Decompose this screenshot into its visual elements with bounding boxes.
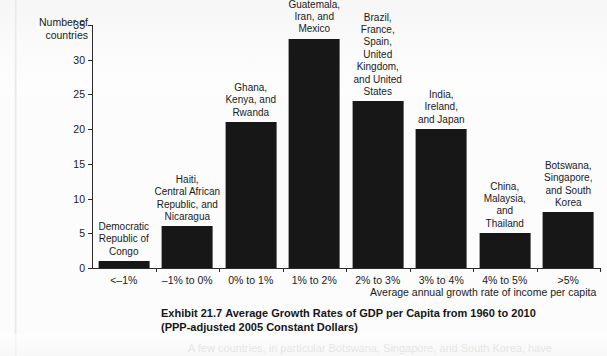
bar-annotation-line: Ghana, <box>214 82 288 94</box>
bar-group: China,Malaysia,andThailand <box>473 25 537 268</box>
bar-annotation-line: and South <box>531 185 605 197</box>
x-axis-tick-mark <box>473 268 474 272</box>
bar-group: Ghana,Kenya, andRwanda <box>219 25 283 268</box>
x-axis-tick-label: 3% to 4% <box>419 274 464 286</box>
bar-annotation-line: Republic, and <box>150 199 224 211</box>
bar <box>289 39 340 268</box>
y-axis-tick-label: 10 <box>73 193 85 205</box>
y-axis-tick-label: 25 <box>73 88 85 100</box>
body-text-clipped: A few countries, in particular Botswana,… <box>188 342 606 355</box>
bar-annotation-line: and United <box>341 74 415 86</box>
bar-annotation-line: Rwanda <box>214 107 288 119</box>
bar-annotation-line: Botswana, <box>531 160 605 172</box>
bar <box>352 101 403 268</box>
y-axis-tick-label: 5 <box>79 227 85 239</box>
bar-group: Brazil,France,Spain,UnitedKingdom,and Un… <box>346 25 410 268</box>
bar-group: DemocraticRepublic ofCongo <box>92 25 156 268</box>
x-axis-tick-mark <box>600 268 601 272</box>
y-axis-tick-mark <box>88 268 92 269</box>
exhibit-subtitle: (PPP-adjusted 2005 Constant Dollars) <box>161 321 358 333</box>
bar-annotation: Brazil,France,Spain,UnitedKingdom,and Un… <box>341 12 415 99</box>
x-axis-tick-label: 0% to 1% <box>228 274 273 286</box>
x-axis-title: Average annual growth rate of income per… <box>370 286 596 298</box>
bar-series: DemocraticRepublic ofCongoHaiti,Central … <box>92 25 600 268</box>
bar-annotation: India,Ireland,and Japan <box>404 89 478 126</box>
bar-annotation-line: Korea <box>531 197 605 209</box>
bar-annotation-line: Thailand <box>468 218 542 230</box>
bar-annotation-line: France, <box>341 24 415 36</box>
bar <box>225 122 276 268</box>
bar-annotation-line: Republic of <box>87 233 161 245</box>
x-axis-tick-mark <box>283 268 284 272</box>
x-axis-tick-mark <box>156 268 157 272</box>
bar-annotation-line: Kenya, and <box>214 94 288 106</box>
bar <box>543 212 594 268</box>
bar-annotation-line: Ireland, <box>404 101 478 113</box>
bar-group: Botswana,Singapore,and SouthKorea <box>537 25 601 268</box>
x-axis-tick-mark <box>219 268 220 272</box>
bar-annotation-line: Congo <box>87 246 161 258</box>
exhibit-caption: Exhibit 21.7 Average Growth Rates of GDP… <box>161 307 601 334</box>
bar-annotation-line: Kingdom, <box>341 61 415 73</box>
bar-annotation-line: Haiti, <box>150 174 224 186</box>
x-axis-tick-label: 1% to 2% <box>292 274 337 286</box>
bar-group: India,Ireland,and Japan <box>410 25 474 268</box>
x-axis-tick-label: <–1% <box>110 274 137 286</box>
bar-group: Guatemala,Iran, andMexico <box>283 25 347 268</box>
x-axis-tick-mark <box>346 268 347 272</box>
bar <box>98 261 149 268</box>
bar-annotation: Botswana,Singapore,and SouthKorea <box>531 160 605 210</box>
y-axis-tick-label: 15 <box>73 158 85 170</box>
bar <box>162 226 213 268</box>
bar-annotation-line: United <box>341 49 415 61</box>
bar-annotation: Ghana,Kenya, andRwanda <box>214 82 288 119</box>
bar <box>416 129 467 268</box>
plot-area: 05101520253035 DemocraticRepublic ofCong… <box>92 25 600 268</box>
bar-annotation-line: Central African <box>150 186 224 198</box>
x-axis-tick-label: >5% <box>558 274 579 286</box>
bar-annotation-line: Nicaragua <box>150 211 224 223</box>
y-axis-tick-label: 0 <box>79 262 85 274</box>
x-axis-tick-label: 2% to 3% <box>355 274 400 286</box>
y-axis-tick-label: 35 <box>73 19 85 31</box>
bar-annotation-line: Brazil, <box>341 12 415 24</box>
bar-annotation-line: Guatemala, <box>277 0 351 11</box>
bar <box>479 233 530 268</box>
y-axis-tick-label: 30 <box>73 54 85 66</box>
exhibit-number: Exhibit 21.7 <box>161 307 222 319</box>
x-axis-tick-mark <box>537 268 538 272</box>
bar-annotation-line: India, <box>404 89 478 101</box>
exhibit-title: Average Growth Rates of GDP per Capita f… <box>225 307 536 319</box>
x-axis-tick-label: –1% to 0% <box>162 274 213 286</box>
bar-annotation: DemocraticRepublic ofCongo <box>87 221 161 258</box>
bar-chart: Number of countries 05101520253035 Democ… <box>0 0 607 300</box>
x-axis-tick-mark <box>410 268 411 272</box>
x-axis-tick-label: 4% to 5% <box>482 274 527 286</box>
bar-annotation-line: Spain, <box>341 36 415 48</box>
bar-group: Haiti,Central AfricanRepublic, andNicara… <box>156 25 220 268</box>
bar-annotation-line: Singapore, <box>531 172 605 184</box>
bar-annotation-line: and Japan <box>404 114 478 126</box>
y-axis-tick-label: 20 <box>73 123 85 135</box>
bar-annotation: Haiti,Central AfricanRepublic, andNicara… <box>150 174 224 224</box>
